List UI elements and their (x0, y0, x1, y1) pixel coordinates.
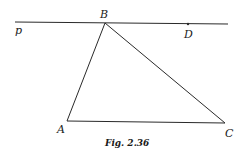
segment-bc (105, 23, 225, 123)
geometry-canvas: B p D A C Fig. 2.36 (0, 0, 247, 155)
label-p: p (15, 24, 22, 37)
label-d: D (183, 28, 193, 41)
line-p (15, 22, 228, 24)
segment-ab (67, 23, 105, 121)
segment-ac (67, 121, 225, 123)
label-b: B (99, 8, 108, 21)
diagram-figure: B p D A C Fig. 2.36 (0, 0, 247, 155)
label-a: A (56, 123, 65, 136)
label-c: C (225, 127, 234, 140)
point-d-dot (187, 23, 189, 25)
figure-caption: Fig. 2.36 (104, 138, 150, 148)
